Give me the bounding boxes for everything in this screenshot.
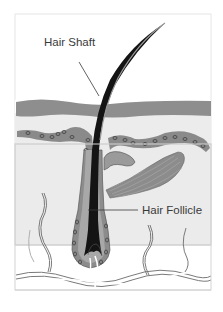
hair-follicle-label: Hair Follicle	[142, 204, 202, 216]
hair-anatomy-illustration	[0, 0, 223, 312]
hair-shaft-label: Hair Shaft	[44, 36, 95, 48]
